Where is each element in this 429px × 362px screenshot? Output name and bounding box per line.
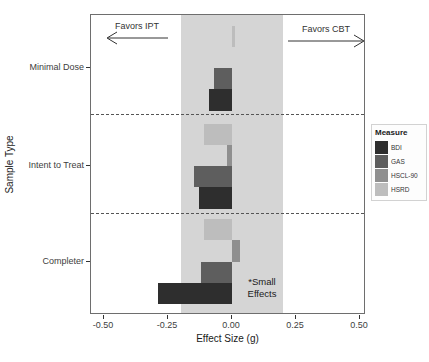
legend-label: HSCL-90 <box>391 172 418 179</box>
bar-minimal-dose-gas <box>214 68 232 89</box>
bar-completer-hscl-90 <box>232 240 240 261</box>
x-tick-mark <box>231 315 232 319</box>
y-axis-title: Sample Type <box>4 100 15 230</box>
legend-entry-gas: GAS <box>375 154 426 168</box>
legend-label: GAS <box>391 158 405 165</box>
bar-intent-to-treat-bdi <box>199 187 232 208</box>
y-tick-mark <box>86 261 90 262</box>
legend-swatch-icon <box>375 155 388 168</box>
small-effects-line1: *Small <box>234 276 290 288</box>
legend-swatch-icon <box>375 141 388 154</box>
x-tick-label: 0.25 <box>286 320 304 330</box>
legend-swatch-icon <box>375 183 388 196</box>
favors-ipt-label: Favors IPT <box>107 21 167 31</box>
effect-size-chart: Favors IPT Favors CBT *Small Effects -0.… <box>0 0 429 362</box>
separator-line <box>91 114 364 115</box>
bar-minimal-dose-hsrd <box>232 26 235 47</box>
bar-completer-hsrd <box>204 219 232 240</box>
favors-cbt-label: Favors CBT <box>296 24 356 34</box>
bar-intent-to-treat-gas <box>194 166 232 187</box>
legend-entry-bdi: BDI <box>375 140 426 154</box>
x-tick-label: -0.50 <box>93 320 114 330</box>
legend-entry-hscl-90: HSCL-90 <box>375 168 426 182</box>
x-tick-mark <box>295 315 296 319</box>
legend-title: Measure <box>375 128 426 137</box>
y-tick-label-completer: Completer <box>0 256 84 266</box>
y-tick-mark <box>86 165 90 166</box>
x-tick-mark <box>167 315 168 319</box>
legend: Measure BDIGASHSCL-90HSRD <box>371 124 427 201</box>
small-effects-annotation: *Small Effects <box>234 276 290 300</box>
bar-completer-bdi <box>158 283 232 304</box>
small-effects-line2: Effects <box>234 288 290 300</box>
legend-entries: BDIGASHSCL-90HSRD <box>375 140 426 196</box>
x-tick-label: 0.00 <box>222 320 240 330</box>
separator-line <box>91 213 364 214</box>
small-effects-shaded-region <box>181 15 283 313</box>
bar-minimal-dose-bdi <box>209 89 232 110</box>
legend-label: BDI <box>391 144 402 151</box>
bar-intent-to-treat-hscl-90 <box>227 145 232 166</box>
y-tick-mark <box>86 67 90 68</box>
right-arrow-icon <box>288 35 364 47</box>
bar-completer-gas <box>201 262 232 283</box>
x-tick-mark <box>359 315 360 319</box>
bar-intent-to-treat-hsrd <box>204 124 232 145</box>
left-arrow-icon <box>107 32 168 44</box>
x-tick-mark <box>103 315 104 319</box>
x-tick-label: -0.25 <box>157 320 178 330</box>
legend-entry-hsrd: HSRD <box>375 182 426 196</box>
y-tick-label-minimal-dose: Minimal Dose <box>0 62 84 72</box>
legend-label: HSRD <box>391 186 409 193</box>
plot-panel: Favors IPT Favors CBT *Small Effects <box>90 14 365 314</box>
x-tick-label: 0.50 <box>350 320 368 330</box>
x-axis-title: Effect Size (g) <box>90 333 365 344</box>
legend-swatch-icon <box>375 169 388 182</box>
